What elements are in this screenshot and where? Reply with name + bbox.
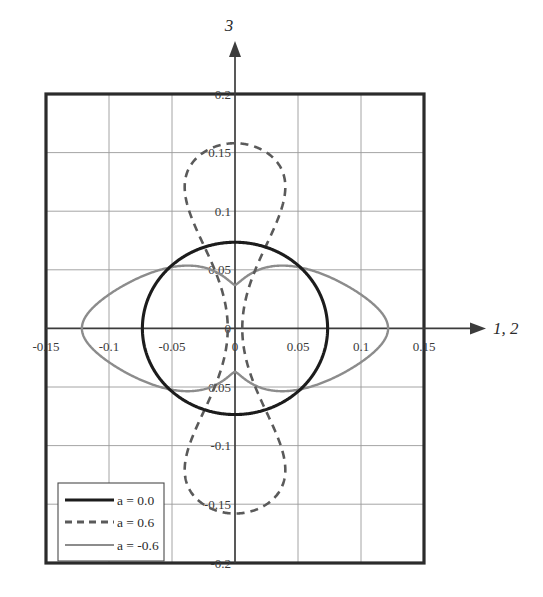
xtick-0.15: 0.15 <box>413 339 436 354</box>
ytick-0.1: 0.1 <box>215 204 231 219</box>
y-axis-label: 3 <box>224 16 234 35</box>
polar-plot-figure: 1, 2 3 0.2 0.15 0.1 0.05 0 -0.05 -0.1 -0… <box>0 0 543 597</box>
ytick-0.15: 0.15 <box>208 145 231 160</box>
xtick-0.1: 0.1 <box>353 339 369 354</box>
xtick--0.15: -0.15 <box>32 339 59 354</box>
x-axis-label: 1, 2 <box>493 319 519 338</box>
legend: a = 0.0 a = 0.6 a = -0.6 <box>58 483 164 561</box>
ytick-0.2: 0.2 <box>215 87 231 102</box>
legend-label-a-0.6: a = 0.6 <box>117 515 154 530</box>
xtick-0: 0 <box>232 339 239 354</box>
xtick--0.1: -0.1 <box>99 339 120 354</box>
xtick-0.05: 0.05 <box>287 339 310 354</box>
ytick--0.15: -0.15 <box>204 497 231 512</box>
xtick--0.05: -0.05 <box>158 339 185 354</box>
ytick--0.2: -0.2 <box>210 556 231 571</box>
legend-label-a-0.0: a = 0.0 <box>117 493 154 508</box>
x-axis-arrow-icon <box>470 322 486 334</box>
legend-label-a-minus-0.6: a = -0.6 <box>117 538 159 553</box>
ytick--0.1: -0.1 <box>210 438 231 453</box>
y-axis-arrow-icon <box>229 41 241 57</box>
